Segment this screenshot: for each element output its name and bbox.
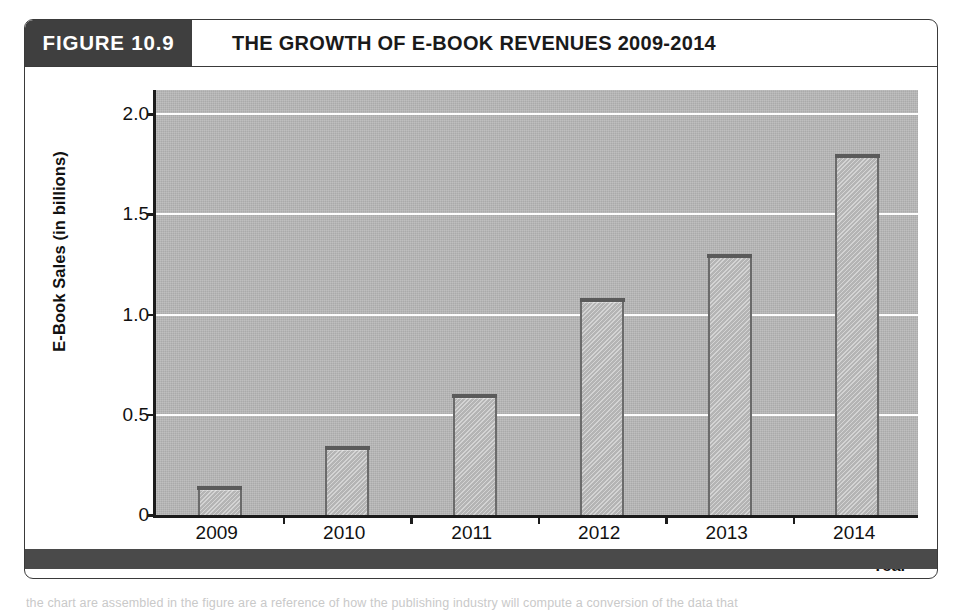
gridline	[156, 314, 918, 316]
x-axis-tick-label: 2010	[289, 522, 399, 544]
gridline	[156, 414, 918, 416]
x-axis-tick-label: 2013	[672, 522, 782, 544]
y-axis-tick-label: 0.5	[87, 404, 149, 426]
plot-area	[153, 90, 918, 518]
bar-2013	[708, 254, 752, 515]
y-axis-title: E-Book Sales (in billions)	[50, 122, 69, 382]
chart-body: E-Book Sales (in billions) 00.51.01.52.0…	[25, 67, 937, 545]
y-axis-tick-labels: 00.51.01.52.0	[87, 67, 149, 545]
page-body-text-fragment: the chart are assembled in the figure ar…	[26, 596, 936, 610]
gridline	[156, 113, 918, 115]
x-axis-tick-label: 2012	[544, 522, 654, 544]
figure-number-badge: FIGURE 10.9	[25, 20, 192, 66]
figure-header: FIGURE 10.9 THE GROWTH OF E-BOOK REVENUE…	[25, 20, 937, 67]
x-axis-tick-label: 2014	[799, 522, 909, 544]
figure-frame: FIGURE 10.9 THE GROWTH OF E-BOOK REVENUE…	[24, 19, 938, 579]
bar-2010	[325, 447, 369, 515]
bar-2014	[835, 154, 879, 515]
y-axis-tick-label: 1.5	[87, 203, 149, 225]
y-axis-tick-mark	[147, 414, 156, 417]
y-axis-tick-mark	[147, 213, 156, 216]
bar-2009	[198, 487, 242, 515]
x-axis-tick-label: 2011	[417, 522, 527, 544]
y-axis-tick-mark	[147, 113, 156, 116]
y-axis-tick-label: 0	[87, 504, 149, 526]
y-axis-tick-mark	[147, 314, 156, 317]
x-axis-tick-label: 2009	[162, 522, 272, 544]
bar-2012	[580, 299, 624, 516]
y-axis-tick-label: 2.0	[87, 103, 149, 125]
gridline	[156, 213, 918, 215]
figure-footer-band	[25, 549, 937, 569]
bar-2011	[453, 395, 497, 515]
x-axis-tick-labels: 200920102011201220132014	[153, 522, 918, 552]
figure-title: THE GROWTH OF E-BOOK REVENUES 2009-2014	[192, 20, 937, 66]
y-axis-tick-mark	[147, 514, 156, 517]
y-axis-tick-label: 1.0	[87, 304, 149, 326]
